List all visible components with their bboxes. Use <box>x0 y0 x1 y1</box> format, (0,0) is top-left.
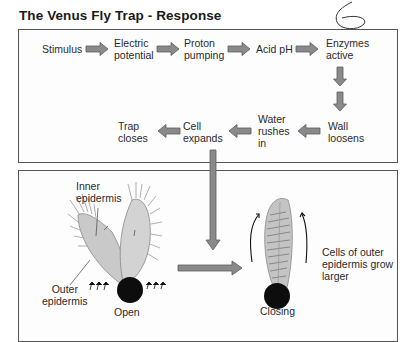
arrow-right-icon <box>86 43 108 56</box>
growth-arrows-left <box>89 282 109 290</box>
label-growth-note: Cells of outerepidermis growlarger <box>322 246 393 282</box>
arrow-down-long-icon <box>206 150 220 250</box>
arrow-left-icon <box>298 125 320 138</box>
arrow-right-icon <box>157 43 179 56</box>
arrow-right-long-icon <box>178 261 242 275</box>
label-open: Open <box>114 306 140 318</box>
arrow-down-icon <box>334 67 347 86</box>
growth-arrows-right <box>146 282 166 289</box>
arrow-down-icon <box>334 92 347 111</box>
arrow-left-icon <box>229 125 251 138</box>
label-inner-epidermis: Innerepidermis <box>76 180 122 204</box>
arrow-left-icon <box>158 125 180 138</box>
arrow-right-icon <box>228 43 250 56</box>
closing-trap-illustration <box>250 199 306 310</box>
arrow-right-icon <box>296 43 318 56</box>
label-closing: Closing <box>260 305 295 317</box>
label-outer-epidermis: Outerepidermis <box>42 283 88 307</box>
